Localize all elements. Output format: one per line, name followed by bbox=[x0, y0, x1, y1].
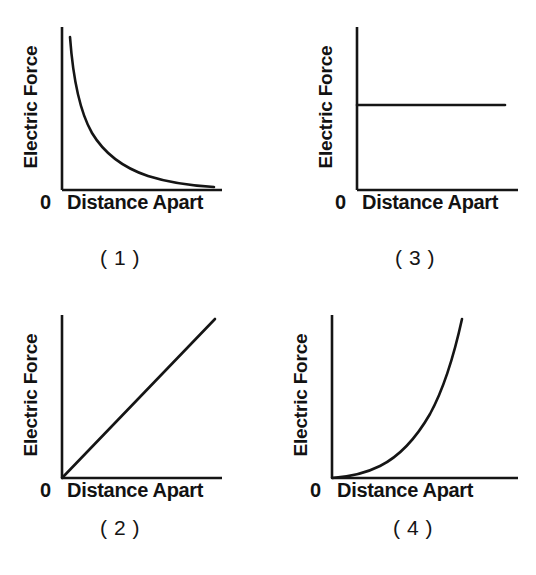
x-axis-label: Distance Apart bbox=[67, 191, 203, 214]
graph-panel-3: Electric Force 0 Distance Apart ( 3 ) bbox=[268, 0, 536, 287]
x-axis-label: Distance Apart bbox=[337, 479, 473, 502]
origin-label: 0 bbox=[310, 479, 321, 502]
x-axis-label: Distance Apart bbox=[67, 479, 203, 502]
panel-caption-4: ( 4 ) bbox=[293, 516, 533, 540]
graph-panel-4: Electric Force 0 Distance Apart ( 4 ) bbox=[268, 288, 536, 575]
graph-panel-1: Electric Force 0 Distance Apart ( 1 ) bbox=[0, 0, 268, 287]
panel-caption-3: ( 3 ) bbox=[295, 246, 535, 270]
data-curve-exponential bbox=[332, 319, 462, 478]
data-curve-inverse bbox=[70, 37, 214, 187]
origin-label: 0 bbox=[335, 191, 346, 214]
y-axis-label: Electric Force bbox=[290, 320, 312, 470]
graph-panel-2: Electric Force 0 Distance Apart ( 2 ) bbox=[0, 288, 268, 575]
figure-container: Electric Force 0 Distance Apart ( 1 ) El… bbox=[0, 0, 536, 575]
y-axis-label: Electric Force bbox=[315, 32, 337, 182]
origin-label: 0 bbox=[40, 479, 51, 502]
origin-label: 0 bbox=[40, 191, 51, 214]
panel-caption-1: ( 1 ) bbox=[0, 246, 240, 270]
x-axis-label: Distance Apart bbox=[362, 191, 498, 214]
y-axis-label: Electric Force bbox=[20, 320, 42, 470]
y-axis-label: Electric Force bbox=[20, 32, 42, 182]
data-curve-linear bbox=[62, 319, 215, 478]
panel-caption-2: ( 2 ) bbox=[0, 516, 240, 540]
